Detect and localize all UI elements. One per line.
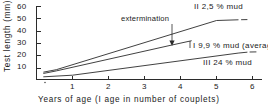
y-tick-label-10: 10 xyxy=(17,62,27,71)
series-label-i: I 9,9 % mud (average) xyxy=(193,41,268,50)
origin-marker xyxy=(44,82,45,83)
y-tick-label-50: 50 xyxy=(17,14,27,23)
x-tick-label-5: 5 xyxy=(214,82,219,91)
series-label-iii: III 24 % mud xyxy=(203,58,252,67)
chart-canvas: Test length (mm) 60 50 40 30 20 10 xyxy=(0,0,268,107)
annotation-extermination-label: extermination xyxy=(121,14,169,23)
series-label-ii: II 2,5 % mud xyxy=(194,2,243,11)
y-tick-label-40: 40 xyxy=(17,26,27,35)
x-tick-label-1: 1 xyxy=(70,82,75,91)
x-tick-label-4: 4 xyxy=(178,82,183,91)
y-axis-title: Test length (mm) xyxy=(3,0,12,72)
x-tick-label-3: 3 xyxy=(142,82,147,91)
x-tick-label-6: 6 xyxy=(250,82,255,91)
y-tick-label-30: 30 xyxy=(17,38,27,47)
x-axis-title: Years of age (I age in number of couplet… xyxy=(38,95,220,104)
x-tick-label-2: 2 xyxy=(106,82,111,91)
y-tick-label-20: 20 xyxy=(17,50,27,59)
chart-figure: Test length (mm) 60 50 40 30 20 10 xyxy=(0,0,268,107)
y-tick-label-60: 60 xyxy=(17,2,27,11)
series-line-i xyxy=(44,41,192,74)
